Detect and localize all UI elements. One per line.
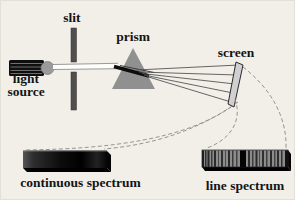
spectral-line xyxy=(281,150,283,167)
curve-screen-to-line-right xyxy=(243,67,286,148)
prism-label: prism xyxy=(110,30,156,44)
screen-label: screen xyxy=(214,46,258,60)
spectral-line xyxy=(262,150,264,167)
spectral-line xyxy=(202,150,204,167)
continuous-bottom-shadow xyxy=(23,168,111,172)
spectral-lines xyxy=(202,150,288,167)
line-spectrum-label: line spectrum xyxy=(199,179,291,193)
spectroscopy-diagram: slit prism screen light source continuou… xyxy=(0,0,295,200)
spectral-line xyxy=(221,150,223,167)
slit-label: slit xyxy=(56,11,88,25)
spectral-line xyxy=(225,150,226,167)
curve-screen-to-continuous-left xyxy=(24,107,231,150)
spectral-line xyxy=(236,150,238,167)
spectral-line xyxy=(248,150,250,167)
dashed-curves xyxy=(24,67,286,150)
spectral-line xyxy=(232,150,234,167)
ray-4 xyxy=(144,75,233,93)
light-source-label-line2: source xyxy=(7,84,44,99)
curve-screen-to-continuous-right xyxy=(104,102,238,149)
spectral-line xyxy=(228,150,230,167)
line-spectrum-bar xyxy=(202,150,291,171)
slit-upper-bar xyxy=(71,28,77,62)
continuous-bar-body xyxy=(23,151,107,169)
spectral-line xyxy=(208,150,210,167)
spectral-line xyxy=(256,150,258,167)
spectral-line xyxy=(214,150,216,167)
slit-lower-bar xyxy=(71,72,77,110)
spectral-line xyxy=(259,150,260,167)
spectral-line xyxy=(277,150,279,167)
spectral-line xyxy=(240,150,246,167)
spectral-line xyxy=(211,150,213,167)
light-source-label: light source xyxy=(0,72,52,98)
spectral-line xyxy=(270,150,272,167)
continuous-spectrum-label: continuous spectrum xyxy=(3,176,158,190)
spectral-line xyxy=(274,150,276,167)
spectral-line xyxy=(205,150,207,167)
spectral-line xyxy=(266,150,268,167)
line-bottom-shadow xyxy=(202,167,291,171)
incident-beam xyxy=(53,63,118,69)
ray-1 xyxy=(136,65,239,70)
spectral-line xyxy=(218,150,219,167)
ray-5 xyxy=(147,77,231,103)
spectral-line xyxy=(285,150,288,167)
continuous-spectrum-bar xyxy=(23,151,111,173)
spectral-line xyxy=(252,150,254,167)
